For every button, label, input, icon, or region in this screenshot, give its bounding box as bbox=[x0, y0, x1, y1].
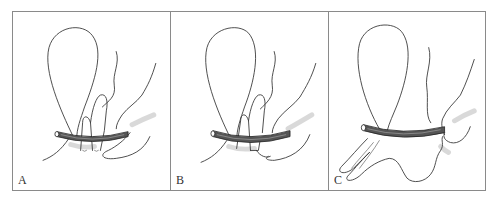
panel-label-b: B bbox=[176, 174, 184, 186]
panel-a: A bbox=[13, 12, 171, 190]
bladder-outline bbox=[358, 25, 408, 131]
figure-frame: A B bbox=[12, 11, 486, 191]
panel-c-illustration bbox=[329, 12, 485, 190]
everted-structure bbox=[340, 139, 370, 173]
panel-b: B bbox=[171, 12, 329, 190]
rectum-outline bbox=[444, 127, 470, 143]
panel-label-a: A bbox=[18, 174, 27, 186]
panel-c: C bbox=[329, 12, 485, 190]
panel-label-c: C bbox=[334, 174, 342, 186]
bladder-outline bbox=[206, 28, 256, 141]
panel-b-illustration bbox=[171, 12, 328, 190]
panel-a-illustration bbox=[13, 12, 170, 190]
